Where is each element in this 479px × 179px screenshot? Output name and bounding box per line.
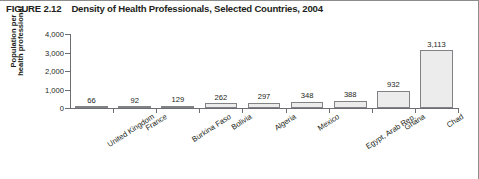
x-axis-category-label: Bolivia (230, 112, 254, 132)
y-axis-tick-label: 4,000 (45, 30, 64, 39)
bar[interactable] (291, 102, 324, 108)
x-axis-category-label: Chad (445, 112, 465, 129)
bar-value-label: 348 (286, 91, 329, 100)
bar-value-label: 66 (70, 96, 113, 105)
figure-container: FIGURE 2.12Density of Health Professiona… (0, 0, 479, 179)
bar[interactable] (420, 50, 453, 108)
x-axis-category-label: Mexico (316, 112, 341, 133)
x-axis-category-label: Egypt, Arab Rep. (365, 112, 418, 151)
x-axis-tick (415, 108, 416, 113)
bar[interactable] (334, 101, 367, 108)
y-axis-tick-label: 1,000 (45, 85, 64, 94)
x-axis-tick (199, 108, 200, 113)
bar[interactable] (75, 106, 108, 108)
bar-group: 66 (70, 34, 113, 108)
page-title: Density of Health Professionals, Selecte… (71, 3, 322, 14)
x-axis-tick (286, 108, 287, 113)
bar-group: 932 (372, 34, 415, 108)
bar-value-label: 3,113 (415, 40, 458, 49)
y-axis-tick (65, 71, 71, 72)
plot-area: 66921292622973483889323,113 (70, 34, 458, 108)
bar[interactable] (118, 106, 151, 108)
y-axis-tick-label: 0 (60, 104, 64, 113)
x-axis-line (70, 108, 459, 109)
x-axis-tick (156, 108, 157, 113)
bar-value-label: 92 (113, 96, 156, 105)
bar[interactable] (377, 91, 410, 108)
bar-value-label: 297 (242, 92, 285, 101)
y-axis-tick (65, 90, 71, 91)
x-axis-category-label: Algeria (273, 112, 298, 132)
bar-group: 297 (242, 34, 285, 108)
bar-value-label: 388 (329, 90, 372, 99)
y-axis-tick-label: 3,000 (45, 48, 64, 57)
bar-group: 348 (286, 34, 329, 108)
y-axis-tick-label: 2,000 (45, 67, 64, 76)
bar[interactable] (248, 103, 281, 108)
y-axis-tick (65, 34, 71, 35)
figure-title-row: FIGURE 2.12Density of Health Professiona… (6, 3, 474, 16)
bar-value-label: 932 (372, 80, 415, 89)
y-axis-tick (65, 108, 71, 109)
x-axis-category-label: Burkina Faso (190, 112, 232, 144)
bar-group: 262 (199, 34, 242, 108)
bar[interactable] (205, 103, 238, 108)
y-axis-tick (65, 53, 71, 54)
x-axis-tick (329, 108, 330, 113)
bar-group: 129 (156, 34, 199, 108)
bar-group: 92 (113, 34, 156, 108)
x-axis-tick (113, 108, 114, 113)
bar[interactable] (161, 106, 194, 108)
bar-group: 388 (329, 34, 372, 108)
bar-value-label: 262 (199, 93, 242, 102)
y-axis-labels: 01,0002,0003,0004,000 (0, 1, 64, 179)
x-axis-tick (242, 108, 243, 113)
x-axis-tick (372, 108, 373, 113)
bar-value-label: 129 (156, 95, 199, 104)
bar-group: 3,113 (415, 34, 458, 108)
